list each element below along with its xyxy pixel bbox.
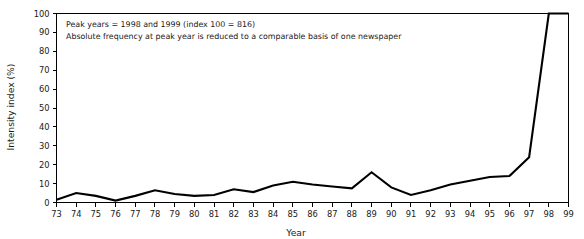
plot-frame [57, 14, 569, 203]
annotation-line-1: Peak years = 1998 and 1999 (index 100 = … [66, 20, 255, 29]
y-tick-label: 20 [39, 160, 50, 170]
x-tick-label: 87 [327, 209, 338, 219]
y-axis-title: Intensity index (%) [5, 64, 16, 151]
x-tick-label: 73 [51, 209, 62, 219]
x-tick-label: 92 [425, 209, 436, 219]
x-tick-label: 84 [268, 209, 279, 219]
x-tick-label: 99 [563, 209, 574, 219]
chart-annotation: Peak years = 1998 and 1999 (index 100 = … [66, 20, 402, 41]
x-axis-tick-labels: 7374757677787980818283848586878889909192… [51, 209, 574, 219]
x-tick-label: 81 [209, 209, 220, 219]
x-tick-label: 77 [130, 209, 141, 219]
x-tick-label: 90 [386, 209, 397, 219]
x-tick-label: 85 [288, 209, 299, 219]
x-tick-label: 82 [228, 209, 239, 219]
x-tick-label: 86 [307, 209, 318, 219]
y-tick-label: 40 [39, 122, 50, 132]
y-tick-label: 30 [39, 141, 50, 151]
annotation-line-2: Absolute frequency at peak year is reduc… [66, 32, 402, 41]
series-line-intensity-index [57, 14, 569, 201]
chart-axes [57, 14, 569, 203]
x-tick-label: 91 [406, 209, 417, 219]
y-tick-label: 0 [44, 198, 49, 208]
x-tick-label: 95 [484, 209, 495, 219]
x-tick-label: 88 [347, 209, 358, 219]
x-tick-label: 93 [445, 209, 456, 219]
x-tick-label: 97 [524, 209, 535, 219]
y-tick-label: 70 [39, 65, 50, 75]
x-tick-label: 96 [504, 209, 515, 219]
y-tick-label: 60 [39, 84, 50, 94]
x-tick-label: 79 [169, 209, 180, 219]
y-axis-tick-labels: 0102030405060708090100 [34, 9, 50, 208]
y-tick-label: 80 [39, 46, 50, 56]
line-chart: 0102030405060708090100 73747576777879808… [0, 0, 584, 239]
y-tick-label: 100 [34, 9, 50, 19]
x-tick-label: 74 [71, 209, 82, 219]
y-tick-label: 50 [39, 103, 50, 113]
x-tick-label: 76 [110, 209, 121, 219]
x-tick-label: 83 [248, 209, 259, 219]
y-tick-label: 10 [39, 179, 50, 189]
x-tick-label: 80 [189, 209, 200, 219]
x-axis-title: Year [285, 227, 306, 238]
x-tick-label: 78 [150, 209, 161, 219]
chart-container: 0102030405060708090100 73747576777879808… [0, 0, 584, 239]
x-tick-label: 89 [366, 209, 377, 219]
data-series-line [57, 14, 569, 201]
x-tick-label: 98 [544, 209, 555, 219]
y-tick-label: 90 [39, 27, 50, 37]
x-tick-label: 94 [465, 209, 476, 219]
x-tick-label: 75 [91, 209, 102, 219]
